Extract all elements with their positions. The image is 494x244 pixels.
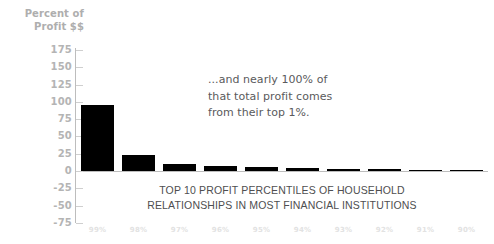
- bar: [204, 166, 237, 171]
- y-axis-tick-label: 175: [30, 45, 72, 55]
- chart-caption: TOP 10 PROFIT PERCENTILES OF HOUSEHOLD R…: [76, 183, 488, 212]
- x-axis-tick-label: 98%: [118, 226, 159, 234]
- bar: [122, 155, 155, 171]
- y-axis-tick-mark: [76, 223, 83, 224]
- x-axis-tick-label: 93%: [323, 226, 364, 234]
- caption-line-1: TOP 10 PROFIT PERCENTILES OF HOUSEHOLD: [76, 183, 488, 198]
- bar: [327, 169, 360, 171]
- annotation-callout: ...and nearly 100% of that total profit …: [208, 72, 332, 122]
- y-axis-title-line-1: Percent of: [6, 8, 84, 21]
- x-axis-tick-label: 94%: [282, 226, 323, 234]
- annotation-line-1: ...and nearly 100% of: [208, 72, 332, 89]
- y-axis-tick-label: 25: [30, 149, 72, 159]
- x-axis-tick-group: 99%98%97%96%95%94%93%92%91%90%: [77, 226, 487, 238]
- caption-line-2: RELATIONSHIPS IN MOST FINANCIAL INSTITUT…: [76, 198, 488, 213]
- bar: [286, 168, 319, 171]
- x-axis-tick-label: 97%: [159, 226, 200, 234]
- x-axis-tick-label: 96%: [200, 226, 241, 234]
- y-axis-tick-mark: [76, 171, 83, 172]
- bar: [163, 164, 196, 171]
- y-axis-title-line-2: Profit $$: [6, 21, 84, 34]
- annotation-line-2: that total profit comes: [208, 89, 332, 106]
- bar: [409, 170, 442, 172]
- y-axis-tick-label: 75: [30, 114, 72, 124]
- x-axis-line: [75, 171, 488, 172]
- x-axis-tick-label: 90%: [446, 226, 487, 234]
- y-axis-tick-label: 50: [30, 131, 72, 141]
- y-axis-tick-label: -25: [30, 183, 72, 193]
- y-axis-tick-label: 0: [30, 166, 72, 176]
- y-axis-tick-label: 100: [30, 97, 72, 107]
- x-axis-tick-label: 99%: [77, 226, 118, 234]
- x-axis-tick-label: 92%: [364, 226, 405, 234]
- bar: [368, 169, 401, 171]
- bar: [81, 105, 114, 171]
- y-axis-tick-label: 150: [30, 62, 72, 72]
- y-axis-tick-label: -75: [30, 218, 72, 228]
- bar: [245, 167, 278, 171]
- x-axis-tick-label: 91%: [405, 226, 446, 234]
- annotation-line-3: from their top 1%.: [208, 105, 332, 122]
- x-axis-tick-label: 95%: [241, 226, 282, 234]
- y-axis-title: Percent of Profit $$: [6, 8, 84, 33]
- y-axis-tick-label: -50: [30, 201, 72, 211]
- y-axis-tick-label: 125: [30, 80, 72, 90]
- bar: [450, 170, 483, 172]
